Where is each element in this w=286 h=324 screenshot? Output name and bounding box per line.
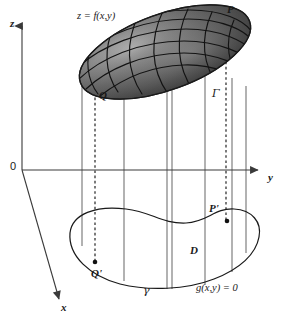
constraint-equation-label: g(x,y) = 0 bbox=[196, 283, 238, 294]
region-d-label: D bbox=[190, 245, 198, 256]
point-q-prime-dot bbox=[93, 260, 98, 265]
x-axis-label: x bbox=[61, 302, 67, 313]
point-q-label: Q bbox=[99, 90, 107, 101]
surface-equation-label: z = f(x,y) bbox=[77, 11, 115, 22]
vertical-ruling-lines bbox=[82, 72, 246, 289]
point-q-prime-label: Q' bbox=[91, 268, 102, 279]
curve-gamma-lower-label: γ bbox=[143, 285, 150, 296]
point-p-label: P bbox=[227, 4, 234, 15]
point-p-prime-label: P' bbox=[209, 203, 219, 214]
y-axis-label: y bbox=[268, 172, 273, 183]
origin-label: 0 bbox=[10, 161, 16, 172]
curve-gamma-upper-label: Γ bbox=[212, 88, 220, 99]
x-axis bbox=[22, 170, 59, 299]
z-axis-label: z bbox=[10, 18, 14, 29]
boundary-point-markers bbox=[93, 219, 230, 265]
figure-canvas: z y x 0 z = f(x,y) P Q Γ P' Q' D γ g(x,y… bbox=[0, 0, 286, 324]
point-p-prime-dot bbox=[225, 219, 230, 224]
diagram-svg bbox=[0, 0, 286, 324]
